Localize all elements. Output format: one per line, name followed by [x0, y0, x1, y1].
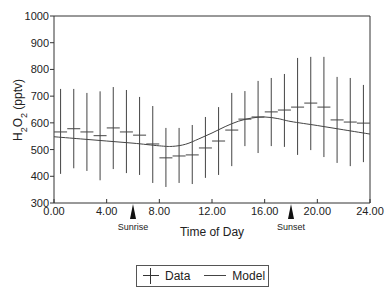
line-icon: [204, 275, 226, 277]
data-point: [278, 74, 291, 147]
data-point: [67, 89, 80, 168]
data-point: [133, 97, 146, 175]
legend-label-data: Data: [165, 269, 190, 283]
data-point: [265, 78, 278, 146]
annotation-label: Sunset: [277, 222, 306, 232]
x-tick-label: 12.00: [198, 205, 226, 217]
y-axis-title: H2O2 (pptv): [11, 79, 29, 141]
errorbar-icon: [143, 268, 159, 284]
y-axis: 3004005006007008009001000: [25, 10, 54, 209]
data-point: [199, 117, 212, 178]
data-point: [186, 125, 199, 184]
legend: Data Model: [136, 265, 269, 287]
data-point: [344, 78, 357, 166]
x-axis-title: Time of Day: [180, 225, 244, 239]
x-tick-label: 8.00: [149, 205, 170, 217]
y-tick-label: 800: [31, 63, 49, 75]
data-point: [331, 77, 344, 163]
x-tick-label: 16.00: [251, 205, 279, 217]
data-point: [173, 128, 186, 183]
annotation-sunrise: Sunrise: [118, 204, 149, 232]
x-tick-label: 24.00: [356, 205, 384, 217]
model-line: [54, 117, 370, 147]
chart: 3004005006007008009001000 0.004.008.0012…: [0, 0, 391, 294]
data-point: [120, 90, 133, 173]
triangle-marker-icon: [130, 204, 136, 219]
data-point: [317, 57, 330, 157]
plot-area: [54, 16, 370, 203]
data-point: [94, 91, 107, 180]
y-tick-label: 600: [31, 117, 49, 129]
y-tick-label: 1000: [25, 10, 49, 22]
y-tick-label: 900: [31, 37, 49, 49]
x-axis: 0.004.008.0012.0016.0020.0024.00: [43, 199, 383, 217]
data-point: [304, 57, 317, 150]
y-tick-label: 700: [31, 90, 49, 102]
x-tick-label: 4.00: [96, 205, 117, 217]
data-point: [159, 128, 172, 187]
data-point: [80, 93, 93, 171]
x-tick-label: 0.00: [43, 205, 64, 217]
legend-label-model: Model: [232, 269, 265, 283]
x-tick-label: 20.00: [304, 205, 332, 217]
data-point: [54, 89, 67, 174]
data-point: [212, 107, 225, 175]
legend-item-data: Data: [137, 268, 190, 284]
legend-item-model: Model: [190, 269, 265, 283]
data-point: [107, 87, 120, 169]
data-series-errorbars: [54, 57, 370, 187]
data-point: [225, 93, 238, 166]
data-point: [357, 85, 370, 162]
model-series-line: [54, 117, 370, 147]
y-tick-label: 400: [31, 170, 49, 182]
annotation-label: Sunrise: [118, 222, 149, 232]
y-tick-label: 500: [31, 144, 49, 156]
annotation-sunset: Sunset: [277, 204, 306, 232]
triangle-marker-icon: [288, 204, 294, 219]
data-point: [291, 58, 304, 155]
